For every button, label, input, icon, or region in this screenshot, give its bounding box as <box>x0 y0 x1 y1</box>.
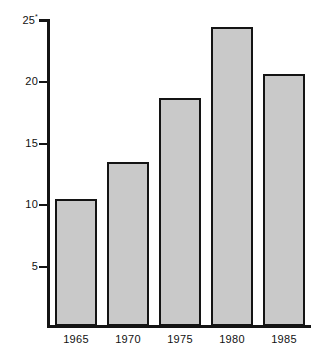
y-axis-label-10: 10 <box>25 199 38 210</box>
x-axis-label-1980: 1980 <box>206 333 258 345</box>
y-axis-label-15: 15 <box>25 138 38 149</box>
y-axis-label-10-value: 10 <box>25 198 38 210</box>
y-axis-label-25-value: 25 <box>22 14 35 26</box>
y-tick-25 <box>39 19 48 22</box>
y-axis-label-5-value: 5 <box>32 260 38 272</box>
y-axis-line <box>47 19 50 327</box>
x-axis-label-1965: 1965 <box>50 333 102 345</box>
y-tick-10 <box>39 204 48 206</box>
y-axis-label-20: 20 <box>25 76 38 87</box>
bar-1965 <box>55 199 97 326</box>
y-tick-5 <box>39 266 48 268</box>
y-axis-label-5: 5 <box>32 261 38 272</box>
y-tick-20 <box>39 81 48 83</box>
y-axis-label-25: 25* <box>22 15 38 26</box>
y-tick-15 <box>39 143 48 145</box>
x-axis-label-1975: 1975 <box>154 333 206 345</box>
y-axis-label-20-value: 20 <box>25 75 38 87</box>
bar-chart: 25* 20 15 10 5 1965 1970 1975 1980 1985 <box>0 0 333 360</box>
bar-1970 <box>107 162 149 326</box>
y-axis-label-15-value: 15 <box>25 137 38 149</box>
bar-1980 <box>211 27 253 326</box>
x-axis-label-1970: 1970 <box>102 333 154 345</box>
x-axis-label-1985: 1985 <box>258 333 310 345</box>
y-axis-label-25-superscript: * <box>35 13 38 20</box>
bar-1985 <box>263 74 305 326</box>
bar-1975 <box>159 98 201 326</box>
